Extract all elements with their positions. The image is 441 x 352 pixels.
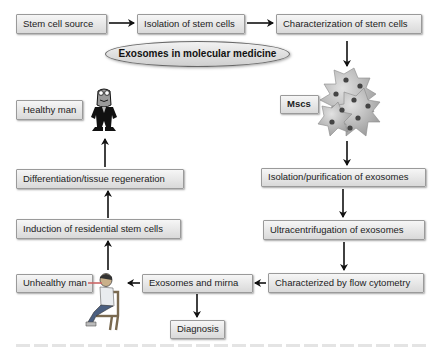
node-stem-cell-source: Stem cell source — [16, 14, 107, 34]
node-mscs: Mscs — [280, 95, 319, 114]
node-exosomes-mirna: Exosomes and mirna — [142, 274, 253, 293]
node-healthy-man: Healthy man — [16, 100, 83, 120]
node-isolation-stem-cells: Isolation of stem cells — [137, 14, 245, 34]
node-differentiation: Differentiation/tissue regeneration — [16, 169, 184, 189]
node-diagnosis: Diagnosis — [170, 320, 225, 339]
node-unhealthy-man: Unhealthy man — [16, 274, 93, 293]
stem-cell-cluster-icon — [314, 66, 388, 142]
node-induction: Induction of residential stem cells — [16, 219, 181, 239]
node-isolation-purification: Isolation/purification of exosomes — [261, 168, 426, 187]
faint-caption-line — [16, 344, 426, 347]
node-flow-cytometry: Characterized by flow cytometry — [268, 273, 424, 293]
sick-man-icon — [84, 272, 128, 332]
node-characterization-stem-cells: Characterization of stem cells — [276, 14, 422, 34]
diagram-title: Exosomes in molecular medicine — [105, 41, 290, 67]
node-ultracentrifugation: Ultracentrifugation of exosomes — [263, 220, 425, 240]
healthy-man-icon — [87, 87, 121, 137]
